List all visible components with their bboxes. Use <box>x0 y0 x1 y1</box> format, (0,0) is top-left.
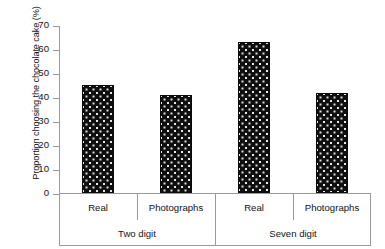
x-axis-category-label: Real <box>59 194 137 220</box>
y-axis-tick-label: 50 <box>38 67 49 78</box>
y-axis-tick-label: 10 <box>38 163 49 174</box>
y-axis-tick: 20 <box>53 146 59 147</box>
x-axis-separator <box>137 194 138 220</box>
x-axis-group-label: Two digit <box>59 220 215 246</box>
y-axis-tick: 10 <box>53 170 59 171</box>
bar <box>160 95 192 193</box>
y-axis-tick-label: 60 <box>38 43 49 54</box>
y-axis-tick: 30 <box>53 122 59 123</box>
y-axis-tick-label: 40 <box>38 91 49 102</box>
bar <box>82 85 114 193</box>
x-axis-category-label: Real <box>215 194 293 220</box>
x-axis-separator <box>293 194 294 220</box>
bar-chart-figure: Proportion choosing the chocolate cake (… <box>0 0 385 249</box>
x-axis-group-label: Seven digit <box>215 220 371 246</box>
x-axis-category-label: Photographs <box>293 194 371 220</box>
x-axis-separator <box>215 194 216 246</box>
y-axis-tick: 50 <box>53 74 59 75</box>
bar <box>238 42 270 193</box>
y-axis-tick: 70 <box>53 26 59 27</box>
x-axis-label-table: RealPhotographsRealPhotographs Two digit… <box>59 194 371 246</box>
y-axis-tick: 40 <box>53 98 59 99</box>
plot-area: 010203040506070 <box>59 26 371 194</box>
bar <box>316 93 348 193</box>
x-axis-category-label: Photographs <box>137 194 215 220</box>
y-axis-line <box>59 26 60 194</box>
y-axis-tick-label: 20 <box>38 139 49 150</box>
y-axis-tick-label: 70 <box>38 19 49 30</box>
y-axis-tick-label: 30 <box>38 115 49 126</box>
y-axis-tick-label: 0 <box>44 187 49 198</box>
y-axis-tick: 60 <box>53 50 59 51</box>
